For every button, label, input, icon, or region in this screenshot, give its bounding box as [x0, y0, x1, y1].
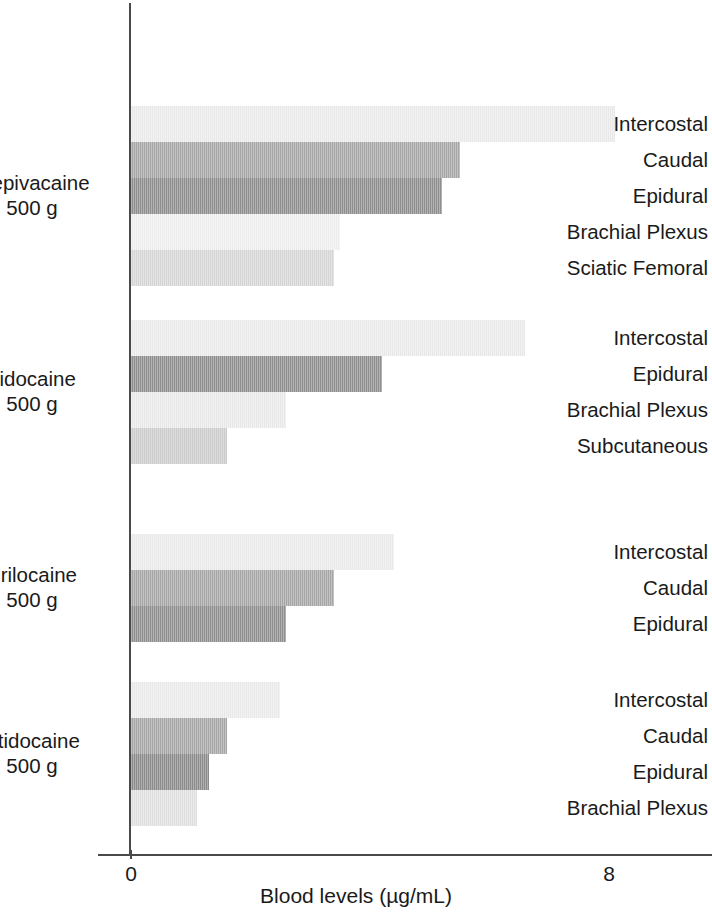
bar-chart: Mepivacaine 500 gIntercostalCaudalEpidur… [0, 0, 712, 917]
bar-label-etidocaine-intercostal: Intercostal [368, 688, 708, 712]
bar-texture [131, 534, 394, 570]
x-tick-label-0: 0 [91, 862, 171, 886]
bar-label-mepivacaine-brachial-plexus: Brachial Plexus [368, 220, 708, 244]
bar-mepivacaine-brachial-plexus [131, 214, 340, 250]
bar-prilocaine-intercostal [131, 534, 394, 570]
x-axis-line [98, 854, 712, 856]
x-tick-0 [130, 850, 132, 859]
bar-label-etidocaine-caudal: Caudal [368, 724, 708, 748]
bar-texture [131, 356, 382, 392]
bar-prilocaine-caudal [131, 570, 334, 606]
bar-etidocaine-intercostal [131, 682, 280, 718]
bar-texture [131, 682, 280, 718]
bar-lidocaine-subcutaneous [131, 428, 227, 464]
bar-texture [131, 754, 209, 790]
group-label-etidocaine: Etidocaine 500 g [0, 728, 127, 778]
bar-texture [131, 606, 286, 642]
group-label-prilocaine: Prilocaine 500 g [0, 562, 127, 612]
bar-texture [131, 718, 227, 754]
bar-label-prilocaine-intercostal: Intercostal [368, 540, 708, 564]
bar-label-etidocaine-brachial-plexus: Brachial Plexus [368, 796, 708, 820]
bar-label-lidocaine-intercostal: Intercostal [368, 326, 708, 350]
bar-texture [131, 392, 286, 428]
x-axis-title: Blood levels (µg/mL) [0, 884, 712, 908]
group-label-lidocaine: Lidocaine 500 g [0, 366, 127, 416]
bar-label-mepivacaine-epidural: Epidural [368, 184, 708, 208]
bar-label-mepivacaine-intercostal: Intercostal [368, 112, 708, 136]
bar-mepivacaine-sciatic-femoral [131, 250, 334, 286]
bar-label-lidocaine-epidural: Epidural [368, 362, 708, 386]
bar-label-lidocaine-brachial-plexus: Brachial Plexus [368, 398, 708, 422]
bar-label-prilocaine-caudal: Caudal [368, 576, 708, 600]
bar-texture [131, 570, 334, 606]
bar-etidocaine-epidural [131, 754, 209, 790]
bar-lidocaine-epidural [131, 356, 382, 392]
bar-prilocaine-epidural [131, 606, 286, 642]
group-label-mepivacaine: Mepivacaine 500 g [0, 170, 127, 220]
bar-texture [131, 214, 340, 250]
x-tick-label-8: 8 [569, 862, 649, 886]
bar-lidocaine-brachial-plexus [131, 392, 286, 428]
bar-texture [131, 428, 227, 464]
bar-label-etidocaine-epidural: Epidural [368, 760, 708, 784]
bar-label-mepivacaine-sciatic-femoral: Sciatic Femoral [368, 256, 708, 280]
plot-area: Mepivacaine 500 gIntercostalCaudalEpidur… [0, 0, 712, 860]
bar-etidocaine-caudal [131, 718, 227, 754]
bar-texture [131, 790, 197, 826]
bar-label-mepivacaine-caudal: Caudal [368, 148, 708, 172]
bar-label-prilocaine-epidural: Epidural [368, 612, 708, 636]
bar-etidocaine-brachial-plexus [131, 790, 197, 826]
y-axis-line [129, 3, 131, 855]
bar-label-lidocaine-subcutaneous: Subcutaneous [368, 434, 708, 458]
bar-texture [131, 250, 334, 286]
